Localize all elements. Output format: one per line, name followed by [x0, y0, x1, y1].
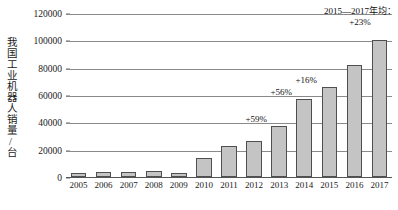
x-axis-tick-label-2017: 2017: [370, 180, 388, 190]
average-growth-annotation: 2015—2017年均： +23%: [324, 6, 396, 28]
bars-group: [66, 14, 392, 178]
bar-2014: [296, 99, 312, 177]
average-growth-period: 2015—2017年均：: [324, 6, 396, 17]
bar-2010: [196, 158, 212, 177]
y-axis-tick-label: 40000: [38, 118, 62, 128]
bar-chart: 我国工业机器人销量/台 0200004000060000800001000001…: [0, 0, 398, 210]
x-axis-tick-labels: 2005200620072008200920102011201220132014…: [66, 180, 392, 196]
x-axis-tick-label-2007: 2007: [120, 180, 138, 190]
x-axis-line: [66, 177, 392, 178]
x-axis-tick-label-2010: 2010: [195, 180, 213, 190]
y-axis-title: 我国工业机器人销量/台: [2, 12, 18, 182]
x-axis-tick-label-2015: 2015: [320, 180, 338, 190]
y-axis-tick-label: 120000: [34, 9, 63, 19]
x-axis-tick-label-2014: 2014: [295, 180, 313, 190]
bar-2015: [322, 87, 338, 177]
y-axis-tick-label: 80000: [38, 64, 62, 74]
bar-2011: [221, 146, 237, 177]
growth-2013: +59%: [245, 114, 267, 124]
bar-2012: [246, 141, 262, 177]
x-axis-tick-label-2008: 2008: [145, 180, 163, 190]
x-axis-tick-label-2012: 2012: [245, 180, 263, 190]
plot-area: +59%+56%+16%: [66, 14, 392, 178]
bar-2016: [347, 65, 363, 177]
x-axis-tick-label-2016: 2016: [345, 180, 363, 190]
bar-2017: [372, 40, 388, 177]
y-axis-tick-label: 20000: [38, 146, 62, 156]
y-axis-tick-label: 0: [57, 173, 62, 183]
growth-2014: +56%: [270, 87, 292, 97]
y-axis-tick-label: 60000: [38, 91, 62, 101]
y-axis-tick-label: 100000: [34, 36, 63, 46]
x-axis-tick-label-2011: 2011: [220, 180, 238, 190]
x-axis-tick-label-2006: 2006: [95, 180, 113, 190]
average-growth-value: +23%: [324, 17, 396, 28]
y-axis-tick-labels: 020000400006000080000100000120000: [18, 14, 66, 178]
bar-2013: [271, 126, 287, 177]
x-axis-tick-label-2009: 2009: [170, 180, 188, 190]
x-axis-tick-label-2005: 2005: [70, 180, 88, 190]
growth-2015: +16%: [296, 75, 318, 85]
x-axis-tick-label-2013: 2013: [270, 180, 288, 190]
